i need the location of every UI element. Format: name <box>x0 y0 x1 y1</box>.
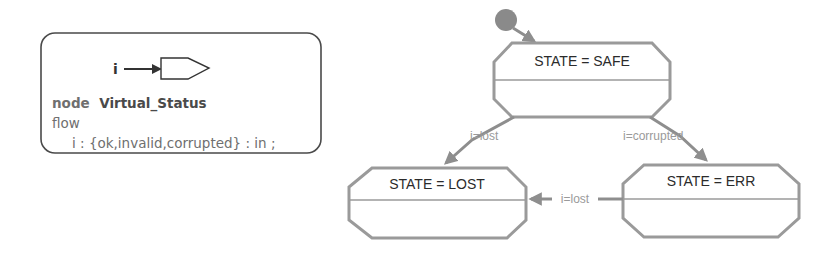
transition-safe-to-err[interactable]: i=corrupted <box>623 117 706 160</box>
flow-declaration: i : {ok,invalid,corrupted} : in ; <box>72 135 275 151</box>
state-err[interactable]: STATE = ERR <box>623 165 799 237</box>
state-safe[interactable]: STATE = SAFE <box>494 43 670 117</box>
state-lost[interactable]: STATE = LOST <box>349 168 526 238</box>
state-safe-label: STATE = SAFE <box>534 53 630 69</box>
node-name: Virtual_Status <box>99 95 206 112</box>
node-title: node Virtual_Status <box>52 94 207 112</box>
transition-err-lost-guard: i=lost <box>561 192 590 206</box>
keyword-node: node <box>52 95 90 111</box>
port-label: i <box>113 61 118 77</box>
state-err-label: STATE = ERR <box>667 173 756 189</box>
transition-err-to-lost[interactable]: i=lost <box>531 192 623 206</box>
state-lost-label: STATE = LOST <box>389 176 485 192</box>
initial-transition-arrow[interactable] <box>513 28 534 41</box>
diagram-canvas: i node Virtual_Status flow i : {ok,inval… <box>0 0 839 257</box>
node-declaration-box: i node Virtual_Status flow i : {ok,inval… <box>41 33 321 153</box>
transition-safe-lost-guard: i=lost <box>470 129 499 143</box>
keyword-flow: flow <box>52 115 80 131</box>
transition-safe-to-lost[interactable]: i=lost <box>446 117 514 163</box>
transition-safe-err-guard: i=corrupted <box>623 129 683 143</box>
